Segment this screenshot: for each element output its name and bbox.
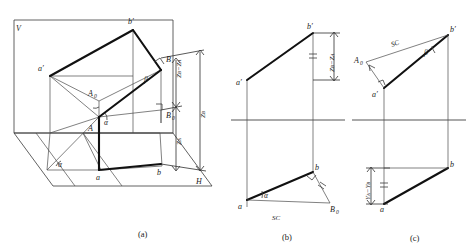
label-b-a: a (238, 202, 242, 211)
figure-canvas: V H a′ b′ B A a b A 0 B 0 α α β Zʙ−Zᴀ Zᴀ… (0, 0, 474, 251)
projection-parallelogram-upper (50, 30, 161, 117)
label-point-A0-a: A 0 (87, 89, 97, 99)
label-dim-zb-minus-za-a: Zʙ−Zᴀ (175, 59, 183, 78)
svg-text:A: A (353, 56, 359, 65)
svg-text:B: B (330, 205, 335, 214)
panel-a-group: V H a′ b′ B A a b A 0 B 0 α α β Zʙ−Zᴀ Zᴀ… (14, 17, 212, 186)
caption-c: (c) (410, 233, 420, 243)
label-point-B0-a: B 0 (166, 111, 175, 121)
lower-left-aux-triangle (47, 133, 99, 170)
label-b-b: b (315, 163, 319, 172)
panel-b-tick-2 (320, 182, 326, 186)
v-plane-outline (14, 20, 173, 133)
label-dim-zb-a: Zʙ (199, 111, 207, 118)
label-b-prime-a: b′ (128, 17, 134, 26)
label-c-a-prime: a′ (372, 90, 378, 99)
panel-b-group: a′ b′ a b B 0 α Zʙ−Zᴀ SC (231, 22, 345, 222)
bold-line-a-prime-b-prime (50, 30, 133, 76)
panel-b-a-to-B0-SC (247, 200, 330, 203)
label-c-A0: A 0 (353, 56, 363, 66)
label-b-dim-zb-za: Zʙ−Zᴀ (328, 53, 336, 72)
label-b-alpha: α (264, 191, 269, 200)
caption-a: (a) (138, 229, 148, 239)
technical-drawing-figure: V H a′ b′ B A a b A 0 B 0 α α β Zʙ−Zᴀ Zᴀ… (0, 0, 474, 251)
panel-c-A0-to-b-prime-SC (366, 35, 448, 62)
panel-b-bold-a-b (247, 172, 313, 200)
svg-text:0: 0 (360, 60, 363, 66)
label-h-plane: H (195, 177, 203, 186)
label-beta-at-B: β (143, 75, 148, 84)
panel-b-bold-a-prime-b-prime (247, 33, 313, 80)
label-b-B0: B 0 (330, 205, 339, 215)
panel-b-right-angle-mark (307, 175, 316, 180)
bold-line-b-prime-B (133, 30, 161, 70)
label-c-b: b (450, 160, 454, 169)
h-construction-line-2 (83, 133, 122, 186)
dim-ext-mid (161, 106, 182, 110)
label-dim-za-a: Zᴀ (175, 138, 183, 145)
label-point-B-a: B (166, 55, 171, 64)
label-a-prime-a: a′ (38, 64, 44, 73)
svg-text:0: 0 (336, 209, 339, 215)
bold-space-line-A-B (99, 70, 161, 117)
svg-text:0: 0 (94, 93, 97, 99)
panel-c-a-prime-to-A0 (366, 62, 384, 88)
svg-text:0: 0 (172, 115, 175, 121)
dim-ext-bottom (161, 164, 206, 171)
label-c-a: a (380, 205, 384, 214)
svg-text:A: A (87, 89, 93, 98)
panel-c-group: A 0 a′ b′ a b β SC Yᴀ−Yʙ (352, 25, 466, 214)
panel-b-tick-1 (318, 185, 324, 189)
label-c-sc: SC (390, 38, 401, 49)
label-v-plane: V (16, 24, 22, 33)
label-alpha-at-A: α (104, 118, 109, 127)
label-c-b-prime: b′ (450, 25, 456, 34)
angle-arc-at-A0 (93, 107, 99, 108)
label-point-A-a: A (87, 124, 93, 133)
label-c-dim-ya-yb: Yᴀ−Yʙ (364, 182, 372, 200)
label-b-sc: SC (272, 214, 281, 222)
label-c-beta: β (423, 48, 428, 57)
svg-text:B: B (166, 111, 171, 120)
A0-to-B-line (99, 70, 161, 101)
label-point-b-a: b (157, 168, 161, 177)
label-b-b-prime: b′ (307, 22, 313, 31)
label-point-a-a: a (96, 173, 100, 182)
label-b-a-prime: a′ (236, 78, 242, 87)
label-alpha-lower-left: α (58, 160, 63, 169)
panel-c-bold-a-b (384, 168, 448, 204)
caption-b: (b) (282, 232, 292, 242)
h-construction-line-1 (36, 133, 75, 186)
